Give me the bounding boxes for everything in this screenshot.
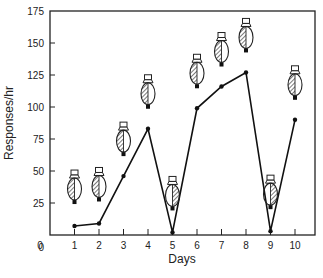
data-point: [121, 174, 125, 178]
data-point: [244, 70, 248, 74]
bulb-icon: [117, 122, 131, 156]
data-point: [219, 84, 223, 88]
bulb-icon: [141, 75, 155, 109]
y-tick-label: 25: [33, 198, 45, 209]
series-line: [75, 72, 296, 232]
y-tick-label: 75: [33, 134, 45, 145]
data-point: [195, 106, 199, 110]
line-chart: 0255075100125150175 012345678910 Days Re…: [0, 0, 323, 278]
data-point: [170, 230, 174, 234]
x-tick-label: 7: [219, 240, 225, 251]
bulb-icon: [92, 167, 106, 201]
data-point: [97, 221, 101, 225]
x-tick-label: 6: [194, 240, 200, 251]
data-point: [268, 229, 272, 233]
bulb-icon: [68, 170, 82, 204]
x-tick-label: 5: [170, 240, 176, 251]
x-tick-label: 3: [121, 240, 127, 251]
x-tick-label: 0: [37, 240, 43, 251]
x-tick-label: 10: [289, 240, 301, 251]
x-tick-label: 8: [243, 240, 249, 251]
y-axis-title: Responses/hr: [2, 86, 16, 160]
y-tick-label: 125: [27, 70, 44, 81]
x-axis-ticks: 012345678910: [37, 229, 301, 251]
bulb-icons: [68, 18, 303, 210]
data-series: [72, 70, 297, 234]
x-tick-label: 9: [268, 240, 274, 251]
bulb-icon: [215, 33, 229, 67]
x-tick-label: 1: [72, 240, 78, 251]
x-tick-label: 4: [145, 240, 151, 251]
y-tick-label: 50: [33, 166, 45, 177]
data-point: [293, 118, 297, 122]
y-tick-label: 100: [27, 102, 44, 113]
data-point: [72, 224, 76, 228]
x-tick-label: 2: [96, 240, 102, 251]
bulb-icon: [190, 54, 204, 88]
x-axis-title: Days: [168, 252, 195, 266]
y-axis-ticks: 0255075100125150175: [27, 6, 55, 253]
y-tick-label: 150: [27, 38, 44, 49]
y-tick-label: 175: [27, 6, 44, 17]
bulb-icon: [288, 66, 302, 100]
bulb-icon: [239, 18, 253, 52]
data-point: [146, 127, 150, 131]
